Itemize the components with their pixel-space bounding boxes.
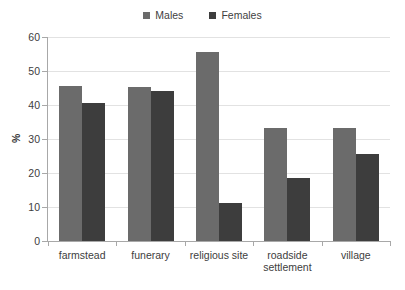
- bar-chart: MalesFemales 6050403020100 % farmsteadfu…: [0, 0, 405, 290]
- x-axis-tick-label: farmstead: [48, 250, 116, 262]
- y-axis-tick: [42, 37, 47, 38]
- bar[interactable]: [264, 128, 287, 241]
- x-axis-tick-label: village: [322, 250, 390, 262]
- chart-legend: MalesFemales: [0, 10, 405, 21]
- bar[interactable]: [196, 52, 219, 241]
- x-axis-tick: [116, 241, 117, 246]
- bar-group: [48, 37, 116, 241]
- y-axis-tick-label: 20: [28, 168, 40, 179]
- x-axis-tick-label: funerary: [116, 250, 184, 262]
- y-axis-tick: [42, 207, 47, 208]
- bar[interactable]: [82, 103, 105, 241]
- x-axis-tick: [185, 241, 186, 246]
- legend-label: Males: [155, 10, 183, 21]
- bar-group: [185, 37, 253, 241]
- axis-baseline: [47, 241, 390, 242]
- legend-swatch-icon: [209, 12, 216, 19]
- x-axis-tick: [253, 241, 254, 246]
- y-axis-tick: [42, 173, 47, 174]
- bar[interactable]: [333, 128, 356, 241]
- legend-entry[interactable]: Males: [143, 10, 183, 21]
- bar[interactable]: [151, 91, 174, 241]
- bar[interactable]: [59, 86, 82, 241]
- bar[interactable]: [128, 87, 151, 241]
- legend-label: Females: [221, 10, 261, 21]
- x-axis-tick: [48, 241, 49, 246]
- bar[interactable]: [287, 178, 310, 241]
- y-axis-tick-label: 50: [28, 66, 40, 77]
- x-axis-tick: [322, 241, 323, 246]
- y-axis-tick: [42, 241, 47, 242]
- legend-entry[interactable]: Females: [209, 10, 261, 21]
- y-axis-tick-label: 10: [28, 202, 40, 213]
- y-axis-tick-label: 60: [28, 32, 40, 43]
- y-axis-tick: [42, 105, 47, 106]
- bar-group: [253, 37, 321, 241]
- bar-group: [116, 37, 184, 241]
- y-axis-tick: [42, 71, 47, 72]
- bar[interactable]: [356, 154, 379, 241]
- x-axis-tick-label: roadside settlement: [253, 250, 321, 273]
- x-axis-tick-label: religious site: [185, 250, 253, 262]
- legend-swatch-icon: [143, 12, 150, 19]
- y-axis-tick-label: 0: [34, 236, 40, 247]
- y-axis-title: %: [11, 134, 22, 143]
- y-axis-tick: [42, 139, 47, 140]
- x-axis-tick: [390, 241, 391, 246]
- bars-layer: [48, 37, 390, 241]
- y-axis-tick-label: 40: [28, 100, 40, 111]
- bar[interactable]: [219, 203, 242, 241]
- bar-group: [322, 37, 390, 241]
- y-axis-tick-label: 30: [28, 134, 40, 145]
